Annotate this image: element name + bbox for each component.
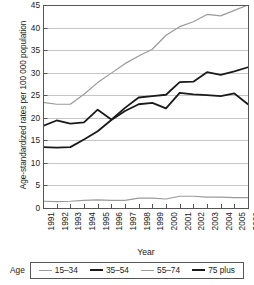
- x-tick-marks: [44, 204, 249, 208]
- legend: Age 15–3435–5455–7475 plus: [10, 261, 244, 279]
- legend-label: 15–34: [55, 265, 78, 275]
- legend-swatch-line-icon: [141, 270, 154, 271]
- y-tick-label: 10: [20, 159, 40, 167]
- x-tick-label: 1992: [61, 212, 70, 246]
- x-tick-label: 1996: [115, 212, 124, 246]
- x-tick-label: 2000: [170, 212, 179, 246]
- x-tick-label: 2005: [238, 212, 247, 246]
- y-tick-label: 15: [20, 136, 40, 144]
- legend-item[interactable]: 55–74: [141, 265, 180, 275]
- y-tick-label: 5: [20, 181, 40, 189]
- x-axis-tick-labels: 1991199219931994199519961997199819992000…: [43, 212, 249, 248]
- legend-label: 55–74: [157, 265, 180, 275]
- x-tick-label: 1999: [156, 212, 165, 246]
- y-tick-label: 0: [20, 204, 40, 212]
- y-tick-marks: [44, 6, 48, 209]
- x-tick-label: 1994: [88, 212, 97, 246]
- x-tick-label: 2002: [197, 212, 206, 246]
- plot-area: [43, 5, 249, 209]
- legend-item[interactable]: 75 plus: [192, 265, 235, 275]
- series-lines: [43, 5, 248, 202]
- x-tick-label: 1991: [47, 212, 56, 246]
- legend-item[interactable]: 15–34: [39, 265, 78, 275]
- legend-box: 15–3435–5455–7475 plus: [30, 262, 244, 279]
- y-tick-label: 20: [20, 114, 40, 122]
- x-tick-label: 1995: [102, 212, 111, 246]
- x-axis-title: Year: [43, 247, 249, 257]
- legend-swatch-line-icon: [192, 269, 205, 271]
- chart-figure: Age-standardized rates per 100 000 popul…: [0, 0, 254, 285]
- y-tick-label: 40: [20, 24, 40, 32]
- legend-label: 35–54: [106, 265, 129, 275]
- legend-label: 75 plus: [208, 265, 235, 275]
- series-line-15-34: [43, 196, 248, 201]
- x-tick-label: 2004: [225, 212, 234, 246]
- y-tick-label: 25: [20, 91, 40, 99]
- legend-title: Age: [10, 265, 30, 275]
- x-tick-label: 2001: [184, 212, 193, 246]
- x-tick-label: 2006: [252, 212, 254, 246]
- legend-swatch-line-icon: [39, 270, 52, 271]
- y-tick-label: 35: [20, 46, 40, 54]
- y-tick-label: 45: [20, 1, 40, 9]
- chart-lines-svg: [43, 5, 249, 209]
- y-tick-label: 30: [20, 69, 40, 77]
- legend-item[interactable]: 35–54: [90, 265, 129, 275]
- x-tick-label: 1997: [129, 212, 138, 246]
- x-tick-label: 1993: [74, 212, 83, 246]
- x-tick-label: 2003: [211, 212, 220, 246]
- y-axis-tick-labels: 051015202530354045: [18, 0, 40, 215]
- legend-swatch-line-icon: [90, 269, 103, 271]
- x-tick-label: 1998: [143, 212, 152, 246]
- series-line-55-74: [43, 5, 248, 104]
